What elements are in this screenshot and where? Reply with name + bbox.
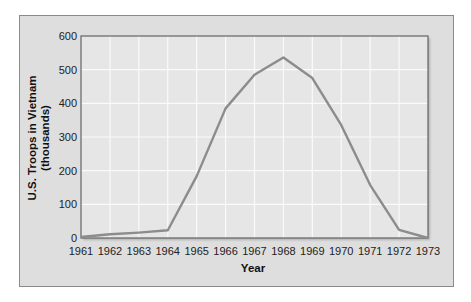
y-axis-title-line2: (thousands) [39,105,51,171]
x-tick-label: 1970 [329,245,353,257]
y-axis-title-line1: U.S. Troops in Vietnam [26,75,38,200]
x-axis-title: Year [241,262,266,274]
line-chart: 0100200300400500600 19611962196319641965… [0,0,471,302]
x-tick-label: 1972 [387,245,411,257]
y-tick-label: 200 [59,165,77,177]
x-tick-label: 1966 [213,245,237,257]
x-axis-ticks: 1961196219631964196519661967196819691970… [69,245,440,257]
x-tick-label: 1963 [127,245,151,257]
y-tick-label: 500 [59,64,77,76]
x-tick-label: 1965 [184,245,208,257]
y-axis-title: U.S. Troops in Vietnam (thousands) [26,75,51,200]
x-tick-label: 1973 [416,245,440,257]
x-tick-label: 1967 [242,245,266,257]
x-tick-label: 1971 [358,245,382,257]
y-axis-ticks: 0100200300400500600 [59,30,77,244]
x-tick-label: 1968 [271,245,295,257]
x-tick-label: 1969 [300,245,324,257]
y-tick-label: 600 [59,30,77,42]
x-tick-label: 1961 [69,245,93,257]
y-tick-label: 400 [59,97,77,109]
y-tick-label: 300 [59,131,77,143]
x-tick-label: 1964 [156,245,180,257]
x-tick-label: 1962 [98,245,122,257]
y-tick-label: 100 [59,198,77,210]
y-tick-label: 0 [71,232,77,244]
